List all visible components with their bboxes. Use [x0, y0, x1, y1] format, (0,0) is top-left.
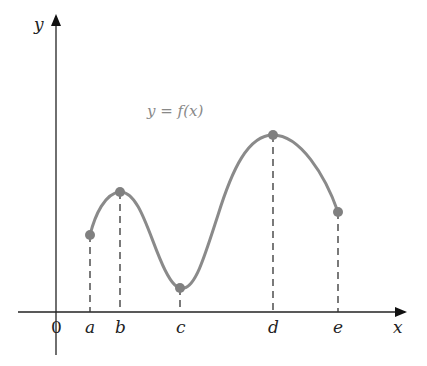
x-axis-label: x [393, 317, 403, 337]
y-axis-label: y [33, 14, 44, 34]
tick-d: d [268, 317, 279, 337]
function-graph: y x y = f(x) 0 a b c d e [0, 0, 427, 366]
function-curve [90, 135, 338, 288]
tick-c: c [176, 317, 186, 337]
tick-a: a [85, 317, 95, 337]
point-a [85, 230, 95, 240]
point-b [115, 187, 125, 197]
critical-points [85, 130, 343, 293]
tick-e: e [333, 317, 343, 337]
point-d [268, 130, 278, 140]
function-label: y = f(x) [146, 102, 203, 120]
tick-b: b [115, 317, 126, 337]
point-e [333, 207, 343, 217]
origin-label: 0 [51, 317, 62, 337]
point-c [175, 283, 185, 293]
